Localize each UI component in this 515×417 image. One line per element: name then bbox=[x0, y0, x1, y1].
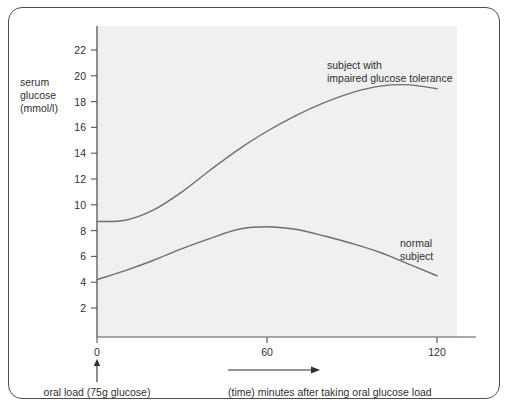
y-axis-ticks: 246810121416182022 bbox=[74, 44, 97, 314]
series-label-normal: normal subject bbox=[400, 237, 433, 262]
y-axis-title-line-2: glucose bbox=[20, 89, 56, 101]
oral-load-arrow-icon bbox=[94, 359, 100, 382]
x-axis-caption: (time) minutes after taking oral glucose… bbox=[228, 386, 432, 398]
y-axis-tick-label: 16 bbox=[74, 121, 86, 133]
figure-root: 246810121416182022 060120 serum glucose … bbox=[0, 0, 515, 417]
x-axis-tick-label: 120 bbox=[428, 346, 446, 358]
oral-load-caption: oral load (75g glucose) bbox=[44, 386, 151, 398]
y-axis-tick-label: 18 bbox=[74, 96, 86, 108]
x-axis-tick-label: 60 bbox=[261, 346, 273, 358]
x-axis-ticks: 060120 bbox=[94, 337, 446, 358]
y-axis-tick-label: 20 bbox=[74, 70, 86, 82]
y-axis-tick-label: 6 bbox=[80, 250, 86, 262]
y-axis-tick-label: 14 bbox=[74, 147, 86, 159]
x-axis-tick-label: 0 bbox=[94, 346, 100, 358]
y-axis-title-line-1: serum bbox=[20, 76, 49, 88]
series-label-normal-line-1: normal bbox=[400, 237, 432, 249]
y-axis-tick-label: 12 bbox=[74, 173, 86, 185]
y-axis-tick-label: 2 bbox=[80, 302, 86, 314]
y-axis-tick-label: 8 bbox=[80, 225, 86, 237]
y-axis-title: serum glucose (mmol/l) bbox=[20, 76, 58, 114]
series-label-normal-line-2: subject bbox=[400, 250, 433, 262]
y-axis-tick-label: 4 bbox=[80, 276, 86, 288]
y-axis-tick-label: 10 bbox=[74, 199, 86, 211]
series-label-impaired-line-1: subject with bbox=[327, 59, 382, 71]
y-axis-tick-label: 22 bbox=[74, 44, 86, 56]
time-direction-arrow-icon bbox=[228, 366, 320, 373]
glucose-tolerance-chart: 246810121416182022 060120 serum glucose … bbox=[0, 0, 515, 417]
series-label-impaired-line-2: impaired glucose tolerance bbox=[327, 72, 453, 84]
y-axis-title-line-3: (mmol/l) bbox=[20, 102, 58, 114]
